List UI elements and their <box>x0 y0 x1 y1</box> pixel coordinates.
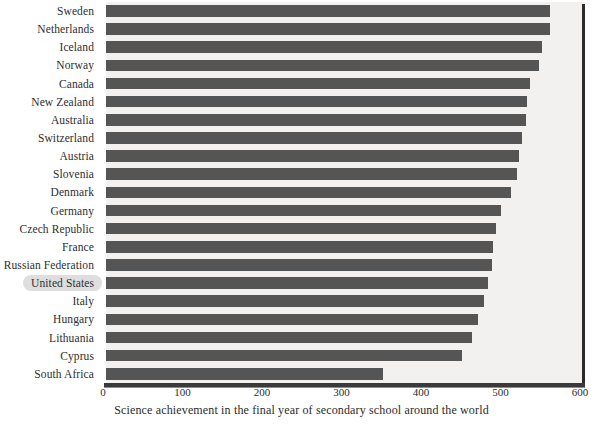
bar-row-label: Italy <box>72 293 94 309</box>
bar <box>106 78 530 90</box>
bar-row: Sweden <box>0 2 603 20</box>
axis-right-line <box>582 4 585 385</box>
bar-row-label: France <box>62 239 94 255</box>
bar-row: Australia <box>0 111 603 129</box>
bar <box>106 60 539 72</box>
bar-row-label: Sweden <box>57 3 94 19</box>
bar-row: Netherlands <box>0 20 603 38</box>
bar <box>106 223 496 235</box>
bar-row-label: Lithuania <box>49 330 94 346</box>
bar-row-label: Russian Federation <box>4 257 94 273</box>
bar <box>106 168 517 180</box>
bar <box>106 259 492 271</box>
x-tick-label: 200 <box>254 386 271 398</box>
bar <box>106 187 511 199</box>
x-axis-title: Science achievement in the final year of… <box>0 403 603 418</box>
bar <box>106 150 519 162</box>
bar-row: Cyprus <box>0 347 603 365</box>
bar-row: Hungary <box>0 310 603 328</box>
bar-row-label: Canada <box>59 76 94 92</box>
bar-row-label: Netherlands <box>37 21 94 37</box>
x-tick-label: 600 <box>572 386 589 398</box>
bar <box>106 114 526 126</box>
bar-row-label: Norway <box>56 57 94 73</box>
x-axis-ticks: 0100200300400500600 <box>0 386 603 402</box>
bar <box>106 205 501 217</box>
bar <box>106 368 383 380</box>
bar-row-label: Iceland <box>59 39 94 55</box>
bar-row: Switzerland <box>0 129 603 147</box>
bar-row: South Africa <box>0 365 603 383</box>
bar <box>106 314 478 326</box>
bar-row: Norway <box>0 56 603 74</box>
bar-row-label: Denmark <box>51 184 95 200</box>
bar-row-label: Germany <box>51 203 95 219</box>
bar-row-label: Czech Republic <box>19 221 94 237</box>
bar-row: Czech Republic <box>0 220 603 238</box>
bar-row: Russian Federation <box>0 256 603 274</box>
bar-row: Iceland <box>0 38 603 56</box>
bar <box>106 132 522 144</box>
bar <box>106 5 550 17</box>
bar-row-label: South Africa <box>34 366 94 382</box>
x-tick-label: 500 <box>492 386 509 398</box>
bar-row: United States <box>0 274 603 292</box>
x-tick-label: 100 <box>174 386 191 398</box>
bar-row: Canada <box>0 75 603 93</box>
bar <box>106 332 472 344</box>
bar-row-label: United States <box>23 275 102 291</box>
x-tick-label: 400 <box>413 386 430 398</box>
bar-row: Austria <box>0 147 603 165</box>
bar <box>106 350 462 362</box>
x-tick-label: 300 <box>333 386 350 398</box>
bar-row: Italy <box>0 292 603 310</box>
bar <box>106 277 488 289</box>
bar-row-label: Australia <box>51 112 94 128</box>
bar <box>106 23 550 35</box>
bar-row-label: Austria <box>59 148 94 164</box>
bar-rows-container: SwedenNetherlandsIcelandNorwayCanadaNew … <box>0 2 603 383</box>
bar <box>106 241 493 253</box>
bar-row-label: New Zealand <box>31 94 94 110</box>
bar <box>106 295 484 307</box>
bar-row: New Zealand <box>0 93 603 111</box>
x-tick-label: 0 <box>100 386 106 398</box>
bar <box>106 41 542 53</box>
bar <box>106 96 527 108</box>
bar-row: Slovenia <box>0 165 603 183</box>
bar-row-label: Cyprus <box>60 348 94 364</box>
bar-row: Lithuania <box>0 329 603 347</box>
bar-row-label: Hungary <box>53 311 94 327</box>
bar-row: Germany <box>0 202 603 220</box>
bar-row: France <box>0 238 603 256</box>
science-achievement-bar-chart: SwedenNetherlandsIcelandNorwayCanadaNew … <box>0 0 603 424</box>
bar-row-label: Slovenia <box>53 166 94 182</box>
bar-row: Denmark <box>0 183 603 201</box>
bar-row-label: Switzerland <box>38 130 94 146</box>
